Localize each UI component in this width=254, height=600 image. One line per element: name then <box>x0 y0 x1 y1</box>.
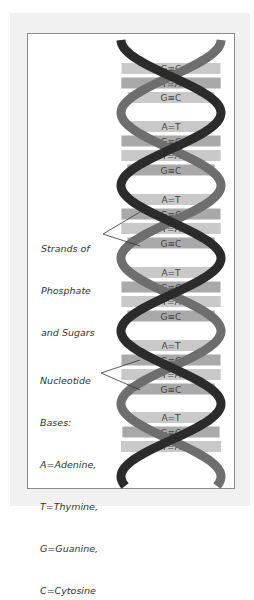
bases-label-line: G=Guanine, <box>40 542 98 556</box>
base-pair-label: G≡C <box>161 93 182 103</box>
strands-label-line: and Sugars <box>41 326 95 340</box>
base-pair-label: A=T <box>161 268 181 278</box>
bases-label-line: C=Cytosine <box>40 584 98 598</box>
bases-label-line: Bases: <box>40 416 98 430</box>
bases-label-line: T=Thymine, <box>40 500 98 514</box>
bases-label-line: A=Adenine, <box>40 458 98 472</box>
strands-label-line: Strands of <box>41 242 95 256</box>
base-pair-label: G≡C <box>161 385 182 395</box>
base-pair-label: G≡C <box>161 312 182 322</box>
bases-label-line: Nucleotide <box>40 374 98 388</box>
strands-label: Strands of Phosphate and Sugars <box>41 214 95 354</box>
base-pair-label: A=T <box>161 122 181 132</box>
strands-label-line: Phosphate <box>41 284 95 298</box>
bases-label: Nucleotide Bases: A=Adenine, T=Thymine, … <box>40 346 98 600</box>
base-pair-label: G≡C <box>161 239 182 249</box>
base-pair-label: G≡C <box>161 166 182 176</box>
base-pair-label: A=T <box>161 341 181 351</box>
base-pair-label: A=T <box>161 413 181 423</box>
base-pair-label: A=T <box>161 195 181 205</box>
